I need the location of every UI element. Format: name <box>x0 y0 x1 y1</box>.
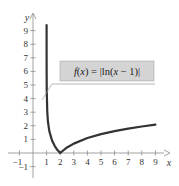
formula-text: f(x) = |ln(x − 1)| <box>74 66 140 78</box>
y-tick-label: 5 <box>24 80 29 90</box>
x-tick-label: 3 <box>72 157 77 167</box>
y-axis-label: y <box>24 12 30 23</box>
function-graph: xy−1123456789−1123456789 f(x) = |ln(x − … <box>0 0 179 186</box>
y-tick-label: 6 <box>24 66 29 76</box>
x-tick-label: 1 <box>44 157 49 167</box>
formula-part: − 1)| <box>118 66 140 78</box>
y-tick-label: 4 <box>24 94 29 104</box>
curve-path <box>47 25 156 153</box>
x-tick-label: 2 <box>58 157 63 167</box>
y-tick-label: 7 <box>24 53 29 63</box>
y-tick-label: 8 <box>24 39 29 49</box>
x-tick-label: 4 <box>85 157 90 167</box>
function-curve <box>47 25 156 153</box>
y-tick-label: 1 <box>24 134 29 144</box>
y-tick-label: 9 <box>24 26 29 36</box>
x-tick-label: 7 <box>126 157 131 167</box>
formula-callout: f(x) = |ln(x − 1)| <box>42 61 155 100</box>
formula-part: = |ln( <box>88 66 113 78</box>
y-tick-label: 2 <box>24 121 29 131</box>
y-tick-label: 3 <box>24 107 29 117</box>
y-tick-label: −1 <box>18 162 28 172</box>
x-axis-label: x <box>166 157 172 168</box>
x-tick-label: 9 <box>153 157 158 167</box>
axes: xy−1123456789−1123456789 <box>8 12 172 178</box>
x-tick-label: 5 <box>99 157 104 167</box>
x-axis-arrow-icon <box>164 150 170 156</box>
x-tick-label: 6 <box>112 157 117 167</box>
x-tick-label: 8 <box>140 157 145 167</box>
